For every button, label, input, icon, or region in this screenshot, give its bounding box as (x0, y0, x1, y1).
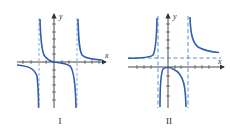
graph-2-ticks (137, 24, 209, 96)
graph-2: y x II (128, 12, 224, 126)
graph-1-curve-left (17, 65, 39, 108)
graph-1: y x I (17, 12, 109, 126)
graph-2-curve-left (128, 18, 157, 58)
graph-2-x-label: x (217, 57, 222, 66)
graph-2-curve-right (190, 17, 219, 53)
graph-1-curve-middle (40, 19, 76, 108)
graph-1-x-label: x (104, 51, 109, 60)
figure-canvas: y x I y x II (0, 0, 230, 134)
graph-1-caption: I (59, 116, 62, 126)
graph-1-curve-right (78, 19, 102, 60)
graph-2-y-label: y (172, 12, 177, 21)
graph-1-y-label: y (58, 12, 63, 21)
graph-2-curve-middle (160, 68, 186, 108)
graph-2-caption: II (166, 116, 172, 126)
